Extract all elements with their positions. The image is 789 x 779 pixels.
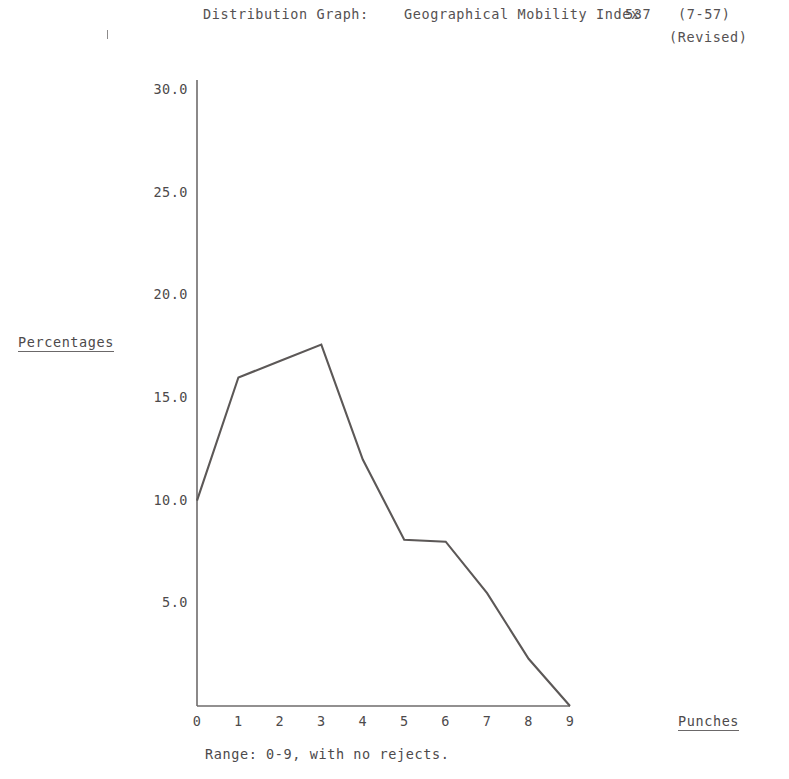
x-tick-label: 2 [270, 713, 290, 729]
x-tick-label: 4 [353, 713, 373, 729]
distribution-graph-page: Distribution Graph: Geographical Mobilit… [0, 0, 789, 779]
y-tick-label: 20.0 [136, 286, 188, 302]
plot-area: 5.010.015.020.025.030.0 0123456789 [0, 0, 789, 779]
x-tick-label: 7 [477, 713, 497, 729]
axis-lines [197, 80, 570, 706]
data-series-line [197, 345, 570, 706]
y-tick-label: 25.0 [136, 184, 188, 200]
x-tick-label: 8 [519, 713, 539, 729]
x-tick-label: 1 [228, 713, 248, 729]
x-tick-label: 5 [394, 713, 414, 729]
x-tick-label: 0 [187, 713, 207, 729]
y-tick-label: 5.0 [136, 594, 188, 610]
y-tick-label: 15.0 [136, 389, 188, 405]
y-tick-label: 10.0 [136, 492, 188, 508]
distribution-polyline [197, 345, 570, 706]
plot-svg [0, 0, 789, 779]
x-tick-label: 3 [311, 713, 331, 729]
y-tick-label: 30.0 [136, 81, 188, 97]
x-tick-label: 6 [436, 713, 456, 729]
x-tick-label: 9 [560, 713, 580, 729]
